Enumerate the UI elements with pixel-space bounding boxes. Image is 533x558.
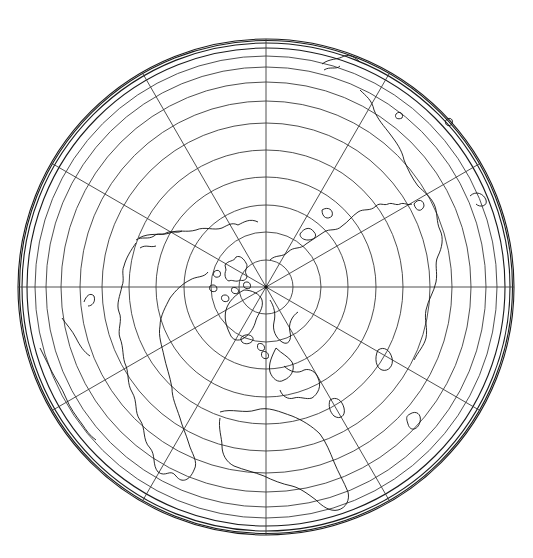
- coastline-greenland: [225, 290, 262, 340]
- coastline-arctic-archipelago: [209, 256, 250, 301]
- coastline-africa: [219, 348, 420, 510]
- north-pole-marker: [264, 285, 268, 289]
- coastline-alaska: [136, 231, 182, 248]
- coastline-north-america: [118, 220, 258, 480]
- coastline-siberia: [270, 203, 412, 260]
- coastline-europe: [257, 300, 319, 399]
- polar-map: [0, 0, 533, 558]
